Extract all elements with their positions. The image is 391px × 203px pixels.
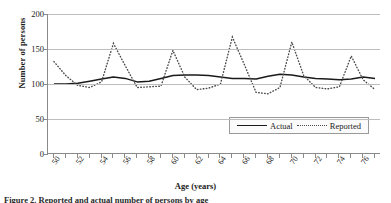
x-tick-label: 60	[169, 154, 181, 166]
x-tick-label: 66	[240, 154, 252, 166]
x-axis-tick-labels: 5052545658606264666870727476	[0, 0, 391, 203]
x-tick-label: 76	[359, 154, 371, 166]
chart-figure: Number of persons 050100150200 Actual Re…	[0, 0, 391, 203]
x-tick-label: 68	[264, 154, 276, 166]
x-tick-label: 50	[50, 154, 62, 166]
figure-caption: Figure 2. Reported and actual number of …	[4, 196, 334, 203]
x-tick-label: 54	[98, 154, 110, 166]
x-axis-title: Age (years)	[0, 181, 391, 191]
x-tick-label: 52	[74, 154, 86, 166]
x-tick-label: 56	[121, 154, 133, 166]
x-tick-label: 72	[312, 154, 324, 166]
x-tick-label: 70	[288, 154, 300, 166]
x-tick-label: 64	[216, 154, 228, 166]
x-tick-label: 58	[145, 154, 157, 166]
x-tick-label: 62	[193, 154, 205, 166]
x-tick-label: 74	[335, 154, 347, 166]
